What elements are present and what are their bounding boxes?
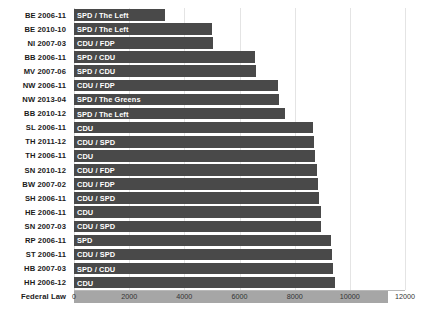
- category-label: BB 2010-12: [24, 109, 66, 118]
- category-label-row: HE 2006-11: [0, 205, 70, 219]
- bar-row: CDU: [74, 121, 405, 135]
- category-label-row: BW 2007-02: [0, 177, 70, 191]
- x-tick-label: 10000: [340, 292, 360, 301]
- category-label: SN 2007-03: [24, 222, 66, 231]
- bar-value-label: CDU: [77, 123, 93, 132]
- x-tick-label: 8000: [287, 292, 303, 301]
- bar: CDU / SPD: [74, 249, 332, 261]
- bar: CDU / FDP: [74, 37, 213, 49]
- plot-area: SPD / The LeftSPD / The LeftCDU / FDPSPD…: [74, 8, 405, 290]
- bar-value-label: CDU / FDP: [77, 81, 115, 90]
- bar-value-label: CDU / FDP: [77, 180, 115, 189]
- bar-value-label: CDU: [77, 278, 93, 287]
- bar-row: CDU: [74, 276, 405, 290]
- bar-row: SPD / The Left: [74, 22, 405, 36]
- bar: SPD / The Left: [74, 9, 165, 21]
- bar-row: CDU / SPD: [74, 191, 405, 205]
- bar-value-label: CDU / SPD: [77, 250, 115, 259]
- bar-value-label: SPD / The Left: [77, 109, 129, 118]
- bar: CDU: [74, 206, 321, 218]
- bar-value-label: SPD / The Left: [77, 24, 129, 33]
- bar: CDU: [74, 122, 313, 134]
- bar-row: CDU: [74, 205, 405, 219]
- category-label: HE 2006-11: [25, 208, 66, 217]
- bar: SPD / The Left: [74, 108, 285, 120]
- bar-row: SPD / The Left: [74, 8, 405, 22]
- category-label-row: SN 2007-03: [0, 219, 70, 233]
- bar-row: CDU / FDP: [74, 177, 405, 191]
- category-label: SN 2010-12: [24, 166, 66, 175]
- bar-value-label: CDU / SPD: [77, 194, 115, 203]
- bar-value-label: CDU: [77, 151, 93, 160]
- category-label-row: NW 2006-11: [0, 78, 70, 92]
- bar-value-label: CDU / FDP: [77, 39, 115, 48]
- bar: SPD / The Greens: [74, 94, 279, 106]
- category-label-row: BE 2010-10: [0, 22, 70, 36]
- bar-row: CDU / SPD: [74, 248, 405, 262]
- category-label-row: BB 2006-11: [0, 50, 70, 64]
- category-label: HH 2006-12: [24, 278, 66, 287]
- bar-value-label: SPD / CDU: [77, 67, 115, 76]
- category-label-row: MV 2007-06: [0, 64, 70, 78]
- category-label: BE 2006-11: [25, 11, 66, 20]
- bar-row: SPD / CDU: [74, 50, 405, 64]
- category-label-row: TH 2011-12: [0, 135, 70, 149]
- x-axis-tick-labels: 020004000600080001000012000: [0, 292, 430, 304]
- bar-chart: BE 2006-11BE 2010-10NI 2007-03BB 2006-11…: [0, 0, 430, 319]
- bar-rows: SPD / The LeftSPD / The LeftCDU / FDPSPD…: [74, 8, 405, 290]
- category-label-row: HH 2006-12: [0, 276, 70, 290]
- category-label: TH 2011-12: [25, 137, 66, 146]
- bar-row: CDU / SPD: [74, 219, 405, 233]
- category-label: RP 2006-11: [25, 236, 66, 245]
- x-tick-label: 0: [72, 292, 76, 301]
- category-label: BW 2007-02: [22, 180, 66, 189]
- bar: CDU / SPD: [74, 192, 319, 204]
- category-label: NW 2006-11: [23, 81, 66, 90]
- x-tick-label: 4000: [176, 292, 192, 301]
- bar-value-label: SPD / CDU: [77, 264, 115, 273]
- category-label-row: BB 2010-12: [0, 107, 70, 121]
- bar-row: CDU: [74, 149, 405, 163]
- bar-value-label: SPD / The Greens: [77, 95, 141, 104]
- x-tick-label: 2000: [121, 292, 137, 301]
- bar-row: SPD / The Greens: [74, 93, 405, 107]
- bar-value-label: SPD / CDU: [77, 53, 115, 62]
- bar: CDU / SPD: [74, 136, 314, 148]
- category-label: NW 2013-04: [22, 95, 66, 104]
- category-label-row: SH 2006-11: [0, 191, 70, 205]
- bar: CDU / FDP: [74, 164, 317, 176]
- bar: SPD / The Left: [74, 23, 212, 35]
- bar-row: CDU / FDP: [74, 163, 405, 177]
- category-label: NI 2007-03: [27, 39, 66, 48]
- bar-value-label: CDU / FDP: [77, 165, 115, 174]
- bar: CDU / FDP: [74, 178, 318, 190]
- bar: SPD / CDU: [74, 65, 256, 77]
- category-label: BB 2006-11: [24, 53, 66, 62]
- x-tick-label: 12000: [395, 292, 415, 301]
- bar: CDU / FDP: [74, 80, 278, 92]
- bar-row: CDU / FDP: [74, 78, 405, 92]
- bar-value-label: SPD / The Left: [77, 10, 129, 19]
- category-label-row: SN 2010-12: [0, 163, 70, 177]
- bar-row: CDU / SPD: [74, 135, 405, 149]
- category-label-row: HB 2007-03: [0, 262, 70, 276]
- category-label-row: ST 2006-11: [0, 248, 70, 262]
- bar: SPD / CDU: [74, 263, 333, 275]
- bar-value-label: CDU: [77, 208, 93, 217]
- gridline: [405, 8, 406, 290]
- category-label: SL 2006-11: [26, 123, 66, 132]
- bar-row: SPD: [74, 234, 405, 248]
- bar: CDU: [74, 150, 315, 162]
- bar: SPD: [74, 235, 331, 247]
- bar-row: SPD / CDU: [74, 262, 405, 276]
- bar-row: CDU / FDP: [74, 36, 405, 50]
- bar-row: SPD / CDU: [74, 64, 405, 78]
- category-label: ST 2006-11: [26, 250, 66, 259]
- category-label-row: TH 2006-11: [0, 149, 70, 163]
- bar-value-label: CDU / SPD: [77, 222, 115, 231]
- category-label-row: SL 2006-11: [0, 121, 70, 135]
- category-label: HB 2007-03: [24, 264, 66, 273]
- category-label-row: NI 2007-03: [0, 36, 70, 50]
- category-axis-labels: BE 2006-11BE 2010-10NI 2007-03BB 2006-11…: [0, 8, 70, 290]
- category-label: BE 2010-10: [24, 25, 66, 34]
